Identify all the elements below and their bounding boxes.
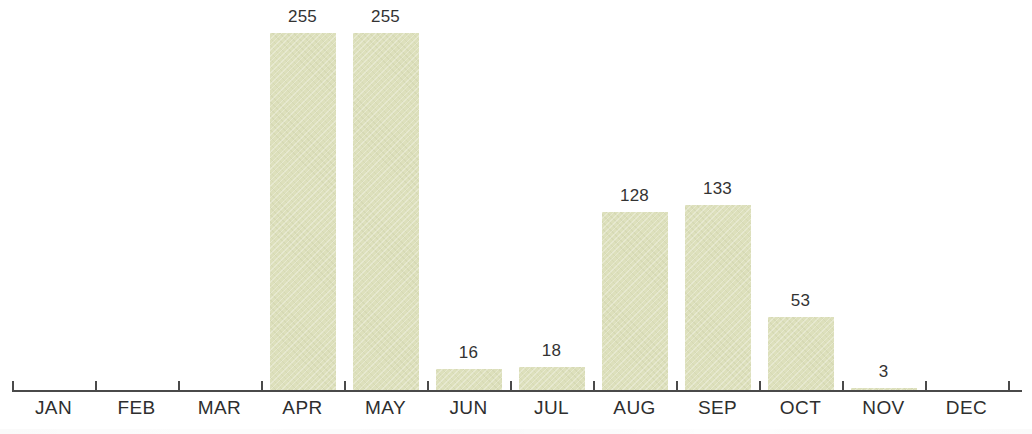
axis-tick-8 [676, 381, 678, 392]
axis-tick-10 [842, 381, 844, 392]
month-label-nov: NOV [842, 396, 925, 420]
month-label-oct: OCT [759, 396, 842, 420]
month-label-feb: FEB [95, 396, 178, 420]
bar-value-label-jul: 18 [510, 342, 593, 359]
month-label-aug: AUG [593, 396, 676, 420]
bar-jun[interactable] [436, 369, 502, 392]
bar-sep[interactable] [685, 205, 751, 392]
bar-aug[interactable] [602, 212, 668, 392]
bar-jul[interactable] [519, 367, 585, 392]
plot-area: 2552551618128133533 [0, 0, 1032, 392]
bar-chart: 2552551618128133533 JANFEBMARAPRMAYJUNJU… [0, 0, 1032, 434]
axis-tick-7 [593, 381, 595, 392]
bar-slot-jun [427, 0, 510, 392]
month-label-dec: DEC [925, 396, 1008, 420]
axis-tick-0 [12, 381, 14, 392]
bar-value-label-nov: 3 [842, 363, 925, 380]
month-label-jan: JAN [12, 396, 95, 420]
axis-tick-11 [925, 381, 927, 392]
axis-tick-12 [1008, 381, 1010, 392]
axis-tick-2 [178, 381, 180, 392]
bar-slot-oct [759, 0, 842, 392]
bar-slot-jul [510, 0, 593, 392]
axis-tick-3 [261, 381, 263, 392]
axis-tick-6 [510, 381, 512, 392]
bar-slot-may [344, 0, 427, 392]
bar-apr[interactable] [270, 33, 336, 392]
bar-value-label-apr: 255 [261, 8, 344, 25]
axis-tick-5 [427, 381, 429, 392]
bar-value-label-aug: 128 [593, 187, 676, 204]
month-label-may: MAY [344, 396, 427, 420]
month-label-apr: APR [261, 396, 344, 420]
x-axis-line [12, 390, 1022, 392]
bar-slot-dec [925, 0, 1008, 392]
bar-slot-jan [12, 0, 95, 392]
bar-oct[interactable] [768, 317, 834, 392]
axis-tick-1 [95, 381, 97, 392]
scan-artifact [0, 429, 1032, 434]
month-label-sep: SEP [676, 396, 759, 420]
bar-slot-mar [178, 0, 261, 392]
axis-tick-9 [759, 381, 761, 392]
bar-value-label-sep: 133 [676, 180, 759, 197]
bar-value-label-may: 255 [344, 8, 427, 25]
month-label-jun: JUN [427, 396, 510, 420]
bar-may[interactable] [353, 33, 419, 392]
month-label-jul: JUL [510, 396, 593, 420]
bar-value-label-jun: 16 [427, 344, 510, 361]
bar-slot-nov [842, 0, 925, 392]
bar-slot-feb [95, 0, 178, 392]
month-label-mar: MAR [178, 396, 261, 420]
axis-tick-4 [344, 381, 346, 392]
bar-value-label-oct: 53 [759, 292, 842, 309]
bar-slot-apr [261, 0, 344, 392]
